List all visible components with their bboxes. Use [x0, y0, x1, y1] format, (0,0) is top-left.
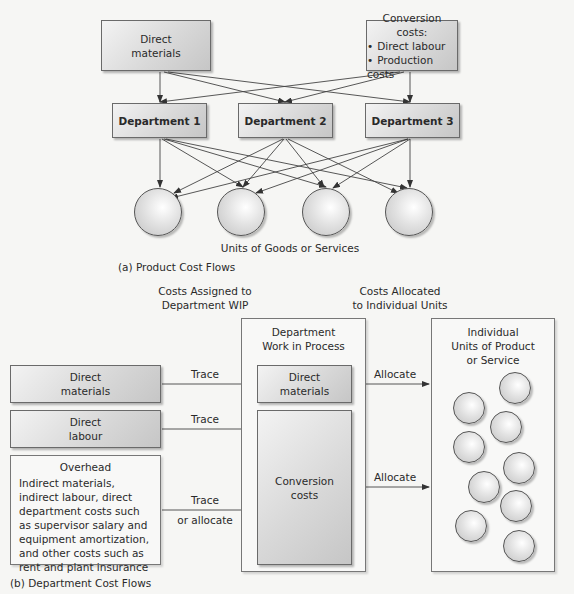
unit-circle	[453, 431, 485, 463]
unit-circle	[455, 510, 487, 542]
wip-conversion-costs: Conversion costs	[257, 410, 352, 565]
wip-direct-materials: Direct materials	[257, 365, 352, 403]
wip-conversion-label: Conversion costs	[275, 474, 334, 502]
units-label: Units of Goods or Services	[180, 241, 400, 255]
overhead-title: Overhead	[19, 460, 152, 474]
conversion-costs-title: Conversion costs:	[367, 11, 457, 39]
unit-circle	[217, 188, 265, 236]
unit-circle	[503, 530, 535, 562]
header-costs-allocated: Costs Allocated to Individual Units	[325, 284, 475, 312]
unit-circle	[134, 188, 182, 236]
arrow-label-or-allocate: or allocate	[170, 513, 240, 527]
conversion-item: Direct labour	[367, 39, 457, 53]
arrow-label-trace: Trace	[175, 367, 235, 381]
wip-dm-label: Direct materials	[280, 370, 329, 398]
direct-labour-input: Direct labour	[10, 410, 161, 448]
conversion-item: Production costs	[367, 53, 457, 81]
arrow-label-allocate: Allocate	[365, 367, 425, 381]
individual-units-container: Individual Units of Product or Service	[431, 318, 555, 572]
unit-circle	[302, 188, 350, 236]
arrow-label-trace: Trace	[175, 412, 235, 426]
unit-circle	[453, 392, 485, 424]
conversion-costs-list: Direct labour Production costs	[367, 39, 457, 81]
department-1: Department 1	[112, 103, 207, 138]
overhead-input: Overhead Indirect materials, indirect la…	[10, 455, 161, 565]
unit-circle	[500, 490, 532, 522]
arrow-label-trace: Trace	[175, 493, 235, 507]
direct-materials-source: Direct materials	[101, 20, 211, 71]
overhead-body: Indirect materials, indirect labour, dir…	[19, 476, 152, 574]
units-title: Individual Units of Product or Service	[432, 325, 554, 367]
direct-materials-input: Direct materials	[10, 365, 161, 403]
caption-a: (a) Product Cost Flows	[118, 261, 235, 273]
unit-circle	[499, 372, 531, 404]
department-label: Department 2	[244, 114, 326, 128]
unit-circle	[385, 188, 433, 236]
caption-b: (b) Department Cost Flows	[10, 577, 151, 589]
unit-circle	[468, 471, 500, 503]
direct-materials-label: Direct materials	[131, 32, 180, 60]
arrow-label-allocate: Allocate	[365, 470, 425, 484]
unit-circle	[503, 452, 535, 484]
input-label: Direct labour	[69, 415, 102, 443]
conversion-costs-source: Conversion costs: Direct labour Producti…	[366, 20, 458, 71]
wip-title: Department Work in Process	[242, 325, 365, 353]
department-2: Department 2	[238, 103, 333, 138]
input-label: Direct materials	[61, 370, 110, 398]
department-label: Department 3	[371, 114, 453, 128]
department-label: Department 1	[118, 114, 200, 128]
department-3: Department 3	[365, 103, 460, 138]
unit-circle	[490, 411, 522, 443]
header-costs-assigned: Costs Assigned to Department WIP	[130, 284, 280, 312]
